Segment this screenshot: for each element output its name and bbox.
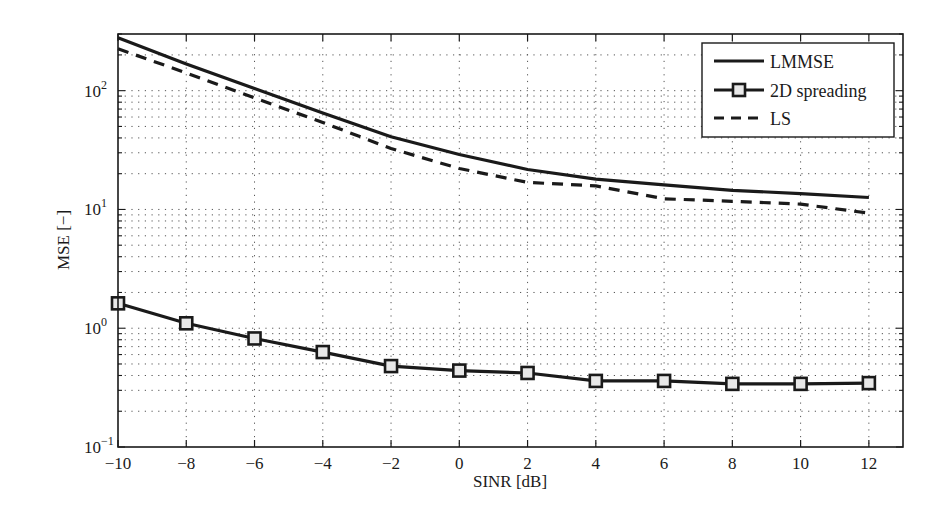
x-tick-label: −8: [177, 454, 195, 473]
y-axis-label: MSE [−]: [54, 210, 73, 270]
square-marker: [726, 378, 738, 390]
legend-label: 2D spreading: [770, 81, 866, 101]
square-marker: [385, 360, 397, 372]
x-tick-label: 4: [592, 454, 601, 473]
x-tick-label: −6: [245, 454, 263, 473]
square-marker: [453, 365, 465, 377]
legend-label: LMMSE: [770, 52, 834, 72]
legend-label: LS: [770, 109, 791, 129]
y-axis-tick-labels: 10−1100101102: [84, 78, 114, 457]
square-marker: [863, 377, 875, 389]
legend: LMMSE2D spreadingLS: [702, 43, 894, 137]
square-marker: [590, 375, 602, 387]
square-marker: [522, 367, 534, 379]
x-axis-label: SINR [dB]: [473, 472, 547, 491]
x-tick-label: 10: [792, 454, 809, 473]
x-tick-label: 6: [660, 454, 669, 473]
y-tick-label: 102: [84, 78, 107, 101]
square-marker: [180, 317, 192, 329]
x-tick-label: 0: [455, 454, 464, 473]
square-marker: [658, 375, 670, 387]
y-tick-label: 100: [84, 315, 107, 338]
x-tick-label: 12: [860, 454, 877, 473]
x-axis-tick-labels: −10−8−6−4−2024681012: [105, 454, 878, 473]
x-tick-label: 8: [728, 454, 737, 473]
legend-square-marker: [733, 84, 745, 96]
x-tick-label: −4: [314, 454, 333, 473]
y-tick-label: 101: [84, 196, 107, 219]
square-marker: [795, 378, 807, 390]
x-tick-label: −2: [382, 454, 400, 473]
mse-vs-sinr-chart: −10−8−6−4−2024681012 10−1100101102 SINR …: [0, 0, 951, 526]
square-marker: [249, 332, 261, 344]
x-tick-label: −10: [105, 454, 132, 473]
series-2d-spreading: [118, 303, 869, 384]
square-marker: [317, 346, 329, 358]
x-tick-label: 2: [523, 454, 532, 473]
